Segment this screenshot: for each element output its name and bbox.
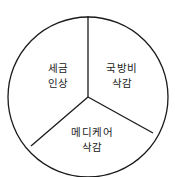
label-line: 국방비 [97,61,147,76]
label-line: 삭감 [62,140,122,155]
slice-label-defense-cut: 국방비 삭감 [97,61,147,91]
label-line: 메디케어 [62,125,122,140]
label-line: 세금 [36,61,80,76]
slice-label-medicare-cut: 메디케어 삭감 [62,125,122,155]
slice-label-tax-increase: 세금 인상 [36,61,80,91]
label-line: 인상 [36,76,80,91]
label-line: 삭감 [97,76,147,91]
